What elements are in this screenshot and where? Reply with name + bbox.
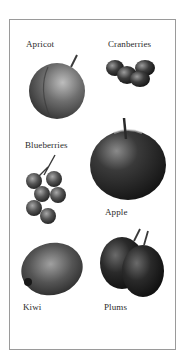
apple-image bbox=[88, 117, 168, 201]
plums-image bbox=[98, 227, 166, 299]
label-apple: Apple bbox=[105, 207, 128, 217]
cranberries-image bbox=[105, 58, 157, 88]
label-plums: Plums bbox=[104, 302, 127, 312]
apricot-image bbox=[26, 53, 88, 121]
label-apricot: Apricot bbox=[26, 39, 54, 49]
blueberries-image bbox=[22, 153, 72, 225]
label-kiwi: Kiwi bbox=[23, 302, 41, 312]
label-blueberries: Blueberries bbox=[25, 140, 68, 150]
label-cranberries: Cranberries bbox=[108, 39, 151, 49]
kiwi-image bbox=[19, 240, 85, 298]
